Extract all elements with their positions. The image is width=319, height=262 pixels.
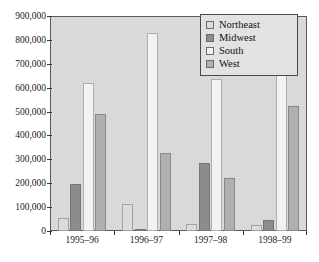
x-tick-label: 1998–99 bbox=[243, 234, 307, 246]
bar-midwest-1998–99 bbox=[263, 220, 274, 231]
legend-item-northeast: Northeast bbox=[206, 19, 292, 31]
legend-label: South bbox=[219, 45, 244, 57]
legend-swatch-icon bbox=[206, 34, 214, 42]
bar-south-1995–96 bbox=[83, 83, 94, 231]
bar-northeast-1995–96 bbox=[58, 218, 69, 231]
bar-northeast-1997–98 bbox=[186, 224, 197, 231]
legend: NortheastMidwestSouthWest bbox=[200, 14, 298, 76]
bar-west-1996–97 bbox=[160, 153, 171, 231]
bar-northeast-1998–99 bbox=[251, 225, 262, 231]
x-axis: 1995–961996–971997–981998–99 bbox=[50, 234, 307, 250]
bar-midwest-1996–97 bbox=[135, 229, 146, 231]
bar-midwest-1997–98 bbox=[199, 163, 210, 231]
legend-swatch-icon bbox=[206, 60, 214, 68]
x-tick-label: 1996–97 bbox=[114, 234, 178, 246]
bar-south-1997–98 bbox=[211, 79, 222, 231]
bar-midwest-1995–96 bbox=[70, 184, 81, 231]
bar-chart: 0100,000200,000300,000400,000500,000600,… bbox=[0, 0, 319, 262]
legend-item-west: West bbox=[206, 58, 292, 70]
bar-south-1996–97 bbox=[147, 33, 158, 231]
legend-label: Northeast bbox=[219, 19, 260, 31]
legend-item-midwest: Midwest bbox=[206, 32, 292, 44]
legend-swatch-icon bbox=[206, 47, 214, 55]
bar-west-1997–98 bbox=[224, 178, 235, 231]
bar-west-1995–96 bbox=[95, 114, 106, 231]
bar-northeast-1996–97 bbox=[122, 204, 133, 231]
legend-swatch-icon bbox=[206, 21, 214, 29]
x-tick-label: 1997–98 bbox=[179, 234, 243, 246]
bar-west-1998–99 bbox=[288, 106, 299, 231]
x-tick-label: 1995–96 bbox=[50, 234, 114, 246]
legend-label: West bbox=[219, 58, 240, 70]
legend-item-south: South bbox=[206, 45, 292, 57]
legend-label: Midwest bbox=[219, 32, 256, 44]
